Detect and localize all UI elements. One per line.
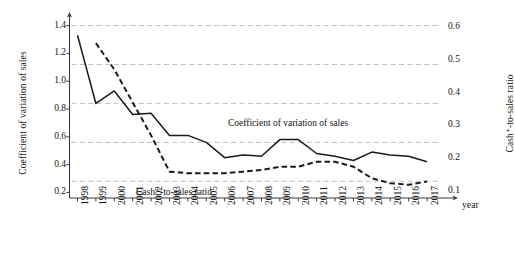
y-axis-left-ticklabel: 0.4 — [54, 160, 66, 170]
y-axis-left-ticklabel: 0.2 — [54, 187, 66, 197]
x-axis-ticklabel: 1999 — [99, 186, 109, 205]
x-axis-ticklabel: 2012 — [339, 186, 349, 205]
y-axis-right-ticklabel: 0.2 — [448, 153, 460, 163]
x-axis-ticklabel: 2014 — [375, 186, 385, 205]
gridlines — [72, 26, 442, 182]
axis-tick-marks — [66, 26, 427, 202]
x-axis-ticklabel: 2000 — [118, 186, 128, 205]
y-axis-right-ticklabel: 0.6 — [448, 22, 460, 32]
x-axis-ticklabel: 2011 — [320, 186, 330, 205]
y-axis-right-ticklabel: 0.4 — [448, 88, 460, 98]
x-axis-ticklabel: 2013 — [357, 186, 367, 205]
y-axis-left-ticklabel: 0.6 — [54, 132, 66, 142]
x-axis-ticklabel: 2010 — [302, 186, 312, 205]
y-axis-left-ticklabel: 1.0 — [54, 76, 66, 86]
annotation-cash-to-sales: Cash⁺-to-sales ratio — [136, 186, 212, 197]
x-axis-ticklabel: 2009 — [283, 186, 293, 205]
y-axis-left-title: Coefficient of variation of sales — [18, 28, 28, 198]
y-axis-left-ticklabel: 1.2 — [54, 48, 66, 58]
data-series-layer — [78, 35, 428, 185]
annotation-coefficient-of-variation: Coefficient of variation of sales — [228, 118, 348, 128]
x-axis-ticklabel: 2016 — [412, 186, 422, 205]
y-axis-right-ticklabel: 0.1 — [448, 186, 460, 196]
x-axis-ticklabel: 2008 — [265, 186, 275, 205]
x-axis-ticklabel: 2015 — [394, 186, 404, 205]
x-axis-ticklabel: 2017 — [431, 186, 441, 205]
y-axis-left-ticklabel: 1.4 — [54, 21, 66, 31]
x-axis-ticklabel: 2006 — [228, 186, 238, 205]
x-axis-ticklabel: 1998 — [81, 186, 91, 205]
x-axis-title: year — [462, 200, 479, 210]
y-axis-right-title: Cash⁺-to-sales ratio — [504, 29, 515, 199]
y-axis-left-ticklabel: 0.8 — [54, 104, 66, 114]
y-axis-right-ticklabel: 0.5 — [448, 55, 460, 65]
x-axis-ticklabel: 2007 — [247, 186, 257, 205]
y-axis-right-ticklabel: 0.3 — [448, 120, 460, 130]
